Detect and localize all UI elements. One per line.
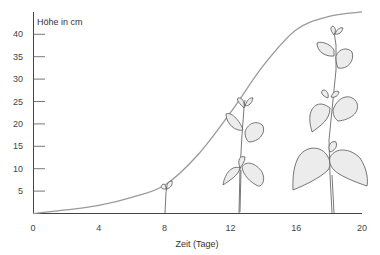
x-axis-title: Zeit (Tage) xyxy=(175,239,218,249)
x-tick-label: 16 xyxy=(291,223,301,233)
y-tick-label: 15 xyxy=(13,141,23,151)
plant-day-18-icon xyxy=(293,26,368,213)
y-tick-label: 35 xyxy=(13,52,23,62)
plant-day-12-icon xyxy=(223,98,264,213)
y-tick-label: 25 xyxy=(13,97,23,107)
x-tick-label: 0 xyxy=(30,223,35,233)
x-tick-label: 4 xyxy=(96,223,101,233)
y-tick-label: 10 xyxy=(13,164,23,174)
x-tick-label: 12 xyxy=(225,223,235,233)
y-tick-label: 5 xyxy=(18,186,23,196)
y-tick-label: 30 xyxy=(13,74,23,84)
x-tick-label: 8 xyxy=(162,223,167,233)
x-tick-label: 20 xyxy=(357,223,367,233)
y-ticks: 510152025303540 xyxy=(13,29,45,196)
x-ticks: 048121620 xyxy=(30,223,367,233)
growth-chart: 510152025303540 048121620 Höhe in cm Zei… xyxy=(0,0,380,255)
plant-day-8-icon xyxy=(161,181,172,213)
y-axis-title: Höhe in cm xyxy=(37,17,83,27)
y-tick-label: 40 xyxy=(13,29,23,39)
y-tick-label: 20 xyxy=(13,119,23,129)
